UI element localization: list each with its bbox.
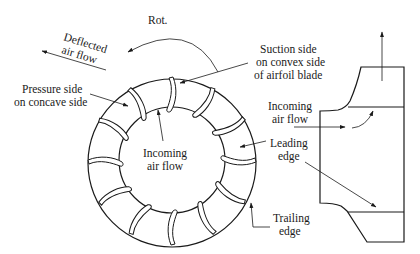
leading-edge-label-line1: Leading [270,137,308,150]
side-view-housing [320,67,404,242]
pressure-side-label-line1: Pressure side [22,83,82,95]
side-incoming-label-line2: air flow [272,113,309,125]
turning-flow-arrow [352,111,373,128]
trailing-edge-label-line2: edge [279,225,301,238]
center-incoming-label-line2: air flow [147,160,184,172]
deflected-air-flow-label: Deflected air flow [59,30,109,67]
rotation-label: Rot. [148,14,168,26]
suction-side-label-line3: of airfoil blade [254,69,322,81]
side-incoming-label-line1: Incoming [268,100,312,113]
pressure-side-label-line2: on concave side [14,96,87,108]
trailing-edge-label-line1: Trailing [273,212,310,225]
suction-side-pointer [180,63,248,83]
leading-edge-pointer-right [305,162,376,207]
suction-side-label-line2: on convex side [256,56,325,68]
suction-side-label-line1: Suction side [260,43,317,55]
leading-edge-label-line2: edge [278,150,300,163]
trailing-edge-pointer [251,203,270,227]
center-incoming-pointer [158,110,163,141]
center-incoming-label-line1: Incoming [143,147,187,160]
fan-impeller-diagram: Rot. Deflected air flow Pressure side on… [0,0,420,254]
rotation-arrow [128,39,218,72]
